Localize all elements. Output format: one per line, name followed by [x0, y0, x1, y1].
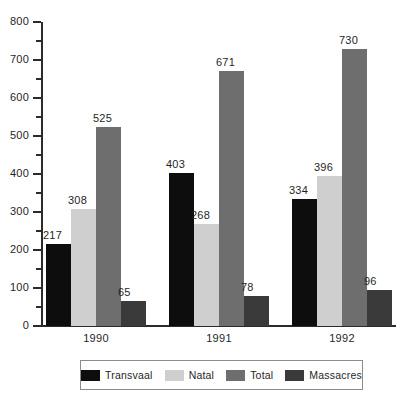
y-axis-tick-label: 200 [1, 244, 29, 255]
chart-legend: TransvaalNatalTotalMassacres [80, 360, 363, 390]
bar [194, 224, 219, 326]
bar [244, 296, 269, 326]
y-axis-tick-major [33, 97, 41, 99]
y-axis-tick-label: 600 [1, 92, 29, 103]
bar [367, 290, 392, 326]
legend-swatch-natal [165, 370, 184, 381]
y-axis-tick-major [33, 325, 41, 327]
bar-value-label: 525 [93, 113, 112, 124]
bar-value-label: 334 [289, 185, 308, 196]
y-axis-tick-label: 700 [1, 54, 29, 65]
x-axis-category-label: 1992 [292, 332, 392, 344]
y-axis-tick-major [33, 59, 41, 61]
y-axis-tick-major [33, 173, 41, 175]
bar [71, 209, 96, 326]
bar [317, 176, 342, 326]
bar [121, 301, 146, 326]
bar-chart: 0100200300400500600700800 21730852565403… [0, 0, 406, 412]
legend-entry: Transvaal [81, 370, 153, 381]
bar [169, 173, 194, 326]
bar-value-label: 308 [68, 195, 87, 206]
legend-label: Total [250, 370, 273, 381]
bar [292, 199, 317, 326]
legend-label: Transvaal [105, 370, 153, 381]
y-axis-tick-major [33, 249, 41, 251]
bar-value-label: 403 [166, 159, 185, 170]
legend-entry: Natal [165, 370, 215, 381]
y-axis-tick-label: 400 [1, 168, 29, 179]
bar-value-label: 78 [241, 282, 254, 293]
legend-swatch-transvaal [81, 370, 100, 381]
y-axis-tick-major [33, 21, 41, 23]
bar-value-label: 396 [314, 162, 333, 173]
y-axis-tick-major [33, 287, 41, 289]
y-axis-tick-label: 100 [1, 282, 29, 293]
bar-value-label: 217 [43, 230, 62, 241]
bar [46, 244, 71, 326]
bar-value-label: 268 [191, 210, 210, 221]
legend-entry: Total [226, 370, 273, 381]
bar-value-label: 730 [339, 35, 358, 46]
bar-value-label: 671 [216, 57, 235, 68]
y-axis-tick-major [33, 211, 41, 213]
x-axis-category-label: 1991 [169, 332, 269, 344]
legend-swatch-massacres [285, 370, 304, 381]
y-axis-tick-label: 300 [1, 206, 29, 217]
bar-value-label: 65 [118, 287, 131, 298]
y-axis-tick-label: 800 [1, 16, 29, 27]
x-axis-category-label: 1990 [46, 332, 146, 344]
y-axis-tick-label: 0 [1, 320, 29, 331]
bars-layer: 217308525654032686717833439673096 [41, 22, 396, 326]
bar-value-label: 96 [364, 276, 377, 287]
legend-label: Massacres [309, 370, 362, 381]
legend-items: TransvaalNatalTotalMassacres [81, 361, 362, 389]
y-axis-tick-label: 500 [1, 130, 29, 141]
legend-entry: Massacres [285, 370, 362, 381]
legend-swatch-total [226, 370, 245, 381]
y-axis-tick-major [33, 135, 41, 137]
legend-label: Natal [189, 370, 215, 381]
